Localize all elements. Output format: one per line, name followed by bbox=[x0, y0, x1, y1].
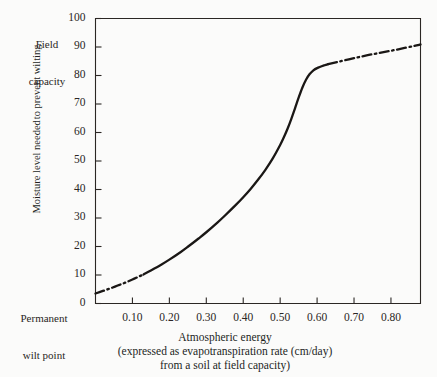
x-tick-label: 0.50 bbox=[259, 311, 301, 324]
axis-frame bbox=[96, 19, 421, 304]
x-tick-label: 0.10 bbox=[111, 311, 153, 324]
y-tick-marks bbox=[96, 19, 102, 304]
x-tick-label: 0.80 bbox=[370, 311, 412, 324]
figure-container: Field capacity Permanent wilt point Mois… bbox=[0, 0, 437, 377]
x-tick-label: 0.20 bbox=[148, 311, 190, 324]
curve-measured-solid bbox=[144, 64, 329, 274]
y-tick-label: 40 bbox=[52, 182, 86, 195]
y-tick-label: 20 bbox=[52, 239, 86, 252]
y-tick-label: 100 bbox=[52, 11, 86, 24]
x-tick-marks bbox=[132, 298, 391, 304]
x-axis-caption-line1: Atmospheric energy bbox=[60, 330, 390, 344]
curve-extrapolated-right bbox=[328, 44, 420, 64]
curve-extrapolated-left bbox=[96, 274, 144, 293]
y-tick-label: 30 bbox=[52, 210, 86, 223]
y-tick-label: 0 bbox=[52, 296, 86, 309]
y-tick-label: 50 bbox=[52, 153, 86, 166]
y-tick-label: 70 bbox=[52, 96, 86, 109]
x-tick-label: 0.40 bbox=[222, 311, 264, 324]
x-tick-label: 0.60 bbox=[296, 311, 338, 324]
y-tick-label: 60 bbox=[52, 125, 86, 138]
x-axis-caption-line2: (expressed as evapotranspiration rate (c… bbox=[60, 344, 390, 358]
x-axis-caption-line3: from a soil at field capacity) bbox=[60, 358, 390, 372]
y-tick-label: 80 bbox=[52, 68, 86, 81]
frame-border bbox=[96, 19, 421, 304]
y-tick-label: 10 bbox=[52, 267, 86, 280]
x-tick-label: 0.30 bbox=[185, 311, 227, 324]
data-curve-group bbox=[96, 44, 421, 293]
x-axis-caption: Atmospheric energy (expressed as evapotr… bbox=[60, 330, 390, 372]
x-tick-label: 0.70 bbox=[333, 311, 375, 324]
y-tick-label: 90 bbox=[52, 39, 86, 52]
